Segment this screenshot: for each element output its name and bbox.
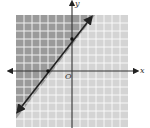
origin-label: O [65,73,72,81]
coordinate-graph [0,0,150,128]
y-axis-label: y [75,0,80,8]
point-y-intercept [70,37,74,41]
point-x-intercept [46,69,50,73]
x-axis-label: x [140,67,145,75]
